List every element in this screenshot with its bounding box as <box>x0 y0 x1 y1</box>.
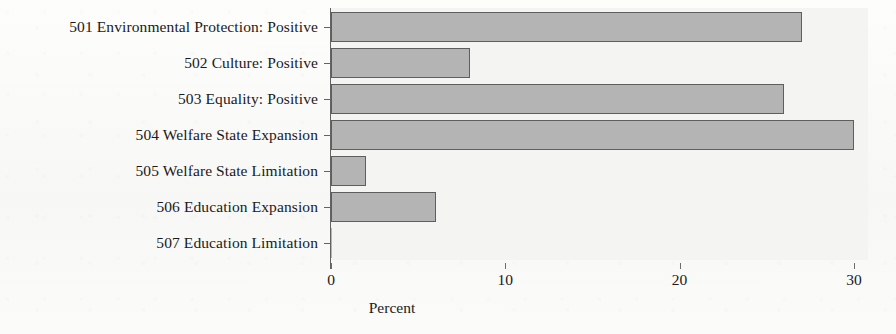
x-tick-label-0: 0 <box>327 272 335 288</box>
x-axis-title: Percent <box>0 300 896 316</box>
x-tick-label-30: 30 <box>846 272 862 288</box>
x-tick-mark <box>680 263 681 269</box>
x-tick-label-20: 20 <box>672 272 688 288</box>
x-axis-ticks: 0102030 <box>0 0 896 334</box>
x-tick-label-10: 10 <box>498 272 514 288</box>
bar-chart-figure: 501 Environmental Protection: Positive50… <box>0 0 896 334</box>
x-tick-mark <box>331 263 332 269</box>
x-tick-mark <box>854 263 855 269</box>
x-axis-title-label: Percent <box>369 300 415 316</box>
x-tick-mark <box>505 263 506 269</box>
